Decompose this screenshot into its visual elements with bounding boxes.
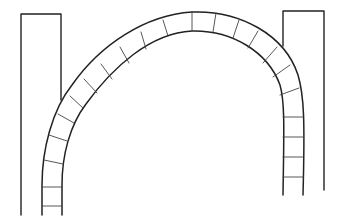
voussoir-joint	[58, 114, 74, 123]
pillars	[21, 11, 324, 215]
voussoir-joint	[263, 47, 277, 63]
voussoir-joint	[44, 160, 63, 164]
voussoir-joint	[280, 88, 299, 95]
voussoir-joint	[49, 135, 67, 141]
arch-drawing	[0, 0, 345, 223]
voussoir-joint	[163, 20, 168, 36]
voussoir-joint	[248, 31, 258, 48]
voussoir-joint	[141, 32, 146, 49]
voussoir-joint	[233, 20, 239, 38]
arch-diagram	[0, 0, 345, 223]
voussoir-joints	[42, 12, 303, 206]
voussoir-joint	[213, 13, 216, 32]
voussoir-joint	[84, 79, 97, 93]
voussoir-joint	[101, 64, 112, 79]
voussoir-joint	[273, 65, 290, 77]
voussoir-joint	[70, 96, 83, 108]
arch-outer-curve	[42, 12, 304, 215]
